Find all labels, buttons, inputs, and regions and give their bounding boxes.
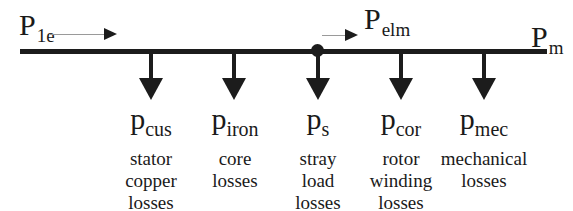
loss-symbol-letter: p xyxy=(381,102,396,135)
down-arrow-icon xyxy=(139,78,163,100)
loss-symbol: pmec xyxy=(429,104,539,144)
down-arrow-icon xyxy=(389,78,413,100)
loss-description: mechanical losses xyxy=(429,148,539,192)
loss-description-line: mechanical xyxy=(429,148,539,170)
input-power-symbol: P xyxy=(19,8,36,41)
down-arrow-icon xyxy=(222,78,246,100)
airgap-power-symbol: P xyxy=(364,2,381,35)
input-power-subscript: 1e xyxy=(37,25,55,46)
down-arrow-icon xyxy=(306,78,330,100)
loss-symbol-subscript: iron xyxy=(226,118,258,140)
input-flow-arrow-icon xyxy=(104,28,117,40)
loss-description-line: losses xyxy=(96,192,206,211)
airgap-flow-arrow-icon xyxy=(345,29,358,41)
loss-arrow-stem-cor xyxy=(399,53,403,79)
loss-label-mechanical: pmec mechanical losses xyxy=(429,104,539,192)
loss-symbol-subscript: s xyxy=(322,118,330,140)
loss-symbol-subscript: cus xyxy=(145,118,172,140)
input-flow-arrow-shaft xyxy=(50,34,106,35)
loss-description-line: losses xyxy=(429,170,539,192)
loss-symbol-letter: p xyxy=(211,102,226,135)
loss-arrow-stem-cus xyxy=(149,53,153,79)
down-arrow-icon xyxy=(472,78,496,100)
airgap-power-subscript: elm xyxy=(382,19,411,40)
loss-symbol-letter: p xyxy=(130,102,145,135)
loss-arrow-stem-mec xyxy=(482,53,486,79)
output-power-subscript: m xyxy=(549,37,564,58)
loss-arrow-stem-s xyxy=(316,53,320,79)
loss-symbol-subscript: mec xyxy=(475,118,508,140)
main-power-line xyxy=(20,49,547,54)
loss-symbol-subscript: cor xyxy=(396,118,422,140)
loss-symbol-letter: p xyxy=(460,102,475,135)
airgap-power-label: Pelm xyxy=(364,4,410,45)
loss-symbol-letter: p xyxy=(307,102,322,135)
loss-description-line: losses xyxy=(346,192,456,211)
airgap-flow-arrow-shaft xyxy=(322,35,346,36)
output-power-label: Pm xyxy=(531,22,563,63)
input-power-label: P1e xyxy=(19,10,55,51)
loss-arrow-stem-iron xyxy=(232,53,236,79)
